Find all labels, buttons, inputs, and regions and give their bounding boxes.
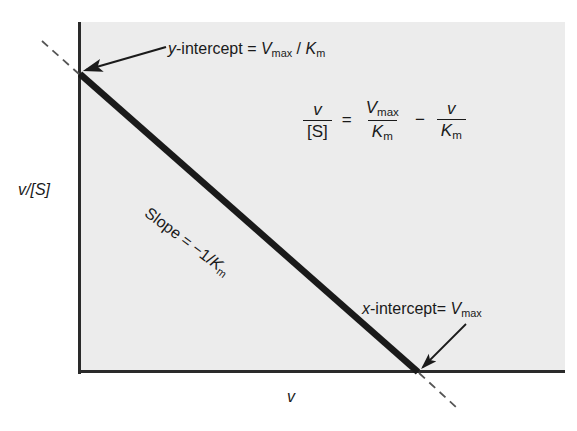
y-intercept-separator: / [292,40,305,57]
equation-term1-numerator-sub: max [377,106,399,118]
y-intercept-denominator-sub: m [316,47,325,59]
dashed-extension-lower-right [419,373,457,408]
x-intercept-prefix: x [362,300,370,317]
y-axis-line [78,22,81,374]
equation-term2-denominator-sub: m [452,129,462,141]
eadie-hofstee-figure: y-intercept = Vmax / Km x-intercept= Vma… [0,0,577,431]
equation-term2-fraction: v Km [437,99,466,142]
equation-term1-numerator: Vmax [362,98,403,120]
equation-minus-sign: − [415,110,425,131]
equation-lhs-fraction: v [S] [303,100,332,141]
y-intercept-numerator-symbol: V [261,40,272,57]
x-intercept-symbol-sub: max [461,307,482,319]
x-axis-label: v [287,388,295,406]
equation-term2-denominator-symbol: K [441,121,452,140]
y-axis-label: v/[S] [18,181,50,199]
plot-area [80,22,565,372]
equation-term1-fraction: Vmax Km [362,98,403,143]
y-intercept-label: y-intercept = Vmax / Km [168,40,325,60]
equation-term1-denominator-sub: m [383,130,393,142]
x-axis-line [78,370,565,373]
y-intercept-text: -intercept = [176,40,261,57]
dashed-extension-upper-left [42,41,79,74]
y-intercept-prefix: y [168,40,176,57]
equation-lhs-numerator: v [309,100,326,120]
x-intercept-symbol: V [450,300,461,317]
x-intercept-text: -intercept= [370,300,450,317]
y-intercept-numerator-sub: max [272,47,293,59]
equation-term1-denominator-symbol: K [372,122,383,141]
equation-term1-numerator-symbol: V [366,98,377,117]
equation-term2-denominator: Km [437,119,466,142]
equation-lhs-denominator: [S] [303,120,332,141]
x-intercept-label: x-intercept= Vmax [362,300,482,320]
equation-equals-sign: = [342,110,352,131]
equation-term2-numerator: v [443,99,460,119]
equation-term1-denominator: Km [368,120,397,143]
y-intercept-denominator-symbol: K [306,40,317,57]
equation-block: v [S] = Vmax Km − v Km [300,98,469,143]
